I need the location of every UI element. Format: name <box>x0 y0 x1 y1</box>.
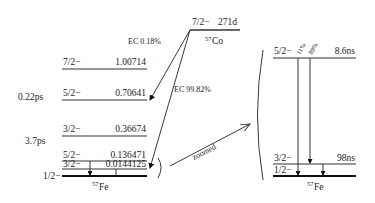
left-level-scheme: 7/2− 1.00714 5/2− 0.70641 0.22ps 3/2− 0.… <box>18 57 161 192</box>
level-energy: 0.70641 <box>115 88 146 98</box>
level-spin: 3/2− <box>63 159 81 169</box>
daughter-symbol: Fe <box>99 182 109 192</box>
decay-scheme-diagram: 7/2− 271d 57 Co EC 0.18% EC 99.82% 7/2− … <box>0 0 375 203</box>
parent-halflife: 271d <box>218 17 237 27</box>
parent-level: 7/2− 271d 57 Co <box>190 17 240 46</box>
ec-decay-arrows: EC 0.18% EC 99.82% <box>128 30 211 168</box>
level-spin: 7/2− <box>63 57 81 67</box>
parent-spin: 7/2− <box>192 17 210 27</box>
ec-arrow-99p82 <box>150 30 190 168</box>
daughter-symbol: Fe <box>314 182 324 192</box>
open-paren <box>258 50 264 180</box>
branch-label: 11% <box>295 41 307 55</box>
level-lifetime: 8.6ns <box>335 46 356 56</box>
parent-symbol: Co <box>212 36 223 46</box>
level-spin: 5/2− <box>63 88 81 98</box>
level-lifetime: 0.22ps <box>18 92 43 102</box>
level-energy: 0.36674 <box>115 124 146 134</box>
level-energy: 0.0144125 <box>106 159 147 169</box>
level-spin: 3/2− <box>274 153 292 163</box>
level-spin: 1/2− <box>43 171 61 181</box>
level-lifetime: 98ns <box>337 153 355 163</box>
zoom-label: zoomed <box>191 142 218 162</box>
zoom-indicator: zoomed <box>170 124 250 166</box>
level-energy: 1.00714 <box>115 57 146 67</box>
branch-label: 89% <box>307 41 319 55</box>
close-paren <box>158 158 161 178</box>
ec-label-0p18: EC 0.18% <box>128 37 161 46</box>
right-level-scheme: 5/2− 8.6ns 11% 89% 3/2− 98ns 1/2− 57 Fe <box>258 41 357 192</box>
ec-label-99p82: EC 99.82% <box>174 85 211 94</box>
level-spin: 3/2− <box>63 124 81 134</box>
level-lifetime: 3.7ps <box>25 136 46 146</box>
level-spin: 5/2− <box>274 46 292 56</box>
level-spin: 1/2− <box>274 165 292 175</box>
